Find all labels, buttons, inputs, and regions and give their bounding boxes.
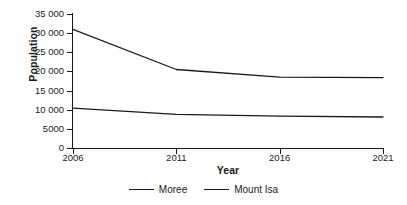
population-line-chart: Population Year 35 00030 00025 00020 000… xyxy=(0,0,407,205)
y-axis-tick xyxy=(67,110,72,111)
x-axis-tick-label: 2011 xyxy=(151,152,201,163)
y-axis-line xyxy=(72,13,73,149)
x-axis-title: Year xyxy=(73,164,383,176)
y-axis-tick-label: 25 000 xyxy=(4,46,64,57)
legend-item[interactable]: Mount Isa xyxy=(204,184,278,195)
x-axis-tick-label: 2021 xyxy=(358,152,407,163)
series-line-moree xyxy=(73,108,383,117)
y-axis-tick-label: 15 000 xyxy=(4,85,64,96)
x-axis-tick-label: 2016 xyxy=(255,152,305,163)
y-axis-tick-label: 35 000 xyxy=(4,8,64,19)
y-axis-tick-label: 20 000 xyxy=(4,65,64,76)
x-axis-tick-label: 2006 xyxy=(48,152,98,163)
y-axis-tick-label: 5000 xyxy=(4,123,64,134)
series-line-mount-isa xyxy=(73,29,383,77)
legend-label: Mount Isa xyxy=(234,184,278,195)
legend-line-swatch xyxy=(129,189,154,191)
y-axis-tick xyxy=(67,91,72,92)
legend-item[interactable]: Moree xyxy=(129,184,187,195)
y-axis-tick-label: 10 000 xyxy=(4,104,64,115)
x-axis-line xyxy=(72,148,384,149)
y-axis-tick xyxy=(67,129,72,130)
y-axis-tick xyxy=(67,14,72,15)
y-axis-tick xyxy=(67,71,72,72)
legend-label: Moree xyxy=(159,184,187,195)
y-axis-tick xyxy=(67,148,72,149)
y-axis-tick-label: 30 000 xyxy=(4,27,64,38)
legend-line-swatch xyxy=(204,189,229,191)
y-axis-tick xyxy=(67,33,72,34)
chart-legend: MoreeMount Isa xyxy=(0,184,407,195)
y-axis-tick xyxy=(67,52,72,53)
